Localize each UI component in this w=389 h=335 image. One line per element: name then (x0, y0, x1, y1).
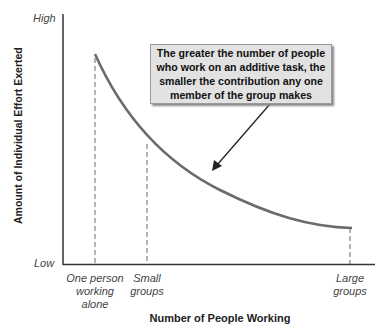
callout-arrow (217, 104, 270, 165)
tick-line: alone (60, 298, 130, 311)
tick-line: groups (325, 285, 375, 298)
y-low-label: Low (34, 257, 54, 269)
tick-line: groups (122, 285, 172, 298)
x-tick-large-groups: Large groups (325, 272, 375, 298)
x-tick-small-groups: Small groups (122, 272, 172, 298)
tick-line: One person (60, 272, 130, 285)
annotation-callout: The greater the number of people who wor… (150, 44, 332, 104)
tick-line: Small (122, 272, 172, 285)
callout-text: The greater the number of people who wor… (151, 46, 331, 102)
tick-line: working (60, 285, 130, 298)
y-axis-title: Amount of Individual Effort Exerted (12, 56, 28, 224)
tick-line: Large (325, 272, 375, 285)
x-axis-title: Number of People Working (120, 312, 320, 324)
y-high-label: High (33, 12, 56, 24)
x-tick-one-person: One person working alone (60, 272, 130, 311)
